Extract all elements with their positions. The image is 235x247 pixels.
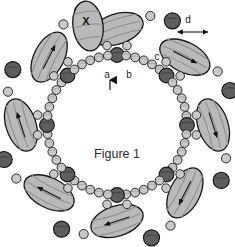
- ring-light-bead: [57, 163, 66, 172]
- linker-bead: [123, 41, 132, 50]
- ring-light-bead: [52, 86, 61, 95]
- label-a: a: [104, 69, 110, 80]
- satellite-light-bead: [3, 87, 12, 96]
- linker-bead: [192, 111, 201, 120]
- linker-bead: [103, 41, 112, 50]
- ring-light-bead: [45, 139, 54, 148]
- ring-light-bead: [48, 147, 57, 156]
- ring-light-bead: [70, 65, 79, 74]
- satellite-dark-bead: [5, 62, 21, 78]
- figure-1-diagram: abcdX Figure 1: [0, 0, 235, 247]
- label-c: c: [155, 51, 160, 62]
- ring-light-bead: [122, 51, 131, 60]
- satellite-light-bead: [12, 174, 21, 183]
- satellite-dark-bead: [143, 230, 159, 246]
- ring-light-bead: [139, 185, 148, 194]
- ring-light-bead: [94, 188, 103, 197]
- ring-light-bead: [86, 185, 95, 194]
- ring-light-bead: [173, 86, 182, 95]
- ring-light-bead: [148, 181, 157, 190]
- ring-light-bead: [103, 190, 112, 199]
- satellite-dark-bead: [54, 221, 70, 237]
- label-d: d: [185, 14, 191, 25]
- label-b: b: [126, 69, 132, 80]
- ring-light-bead: [155, 176, 164, 185]
- linker-bead: [192, 131, 201, 140]
- ring-light-bead: [177, 94, 186, 103]
- ring-light-bead: [180, 102, 189, 111]
- linker-bead: [33, 111, 42, 120]
- linker-bead: [50, 72, 59, 81]
- satellite-light-bead: [146, 11, 155, 20]
- ring-light-bead: [182, 130, 191, 139]
- satellite-dark-bead: [222, 83, 235, 99]
- ring-light-bead: [177, 147, 186, 156]
- ring-light-bead: [43, 111, 52, 120]
- linker-bead: [162, 58, 171, 67]
- satellite-dark-bead: [164, 13, 180, 29]
- ring-light-bead: [180, 139, 189, 148]
- ring-light-bead: [86, 56, 95, 65]
- ring-light-bead: [173, 156, 182, 165]
- satellite-light-bead: [221, 154, 230, 163]
- linker-bead: [176, 170, 185, 179]
- linker-bead: [162, 184, 171, 193]
- ring-light-bead: [94, 53, 103, 62]
- figure-caption: Figure 1: [94, 147, 140, 161]
- satellite-light-bead: [79, 229, 88, 238]
- linker-bead: [103, 200, 112, 209]
- linker-bead: [50, 170, 59, 179]
- label-X: X: [82, 15, 90, 27]
- ring-light-bead: [52, 156, 61, 165]
- ring-assembly-svg: abcdX Figure 1: [0, 0, 235, 247]
- linker-bead: [64, 184, 73, 193]
- satellite-dark-bead: [0, 151, 12, 167]
- linker-bead: [123, 200, 132, 209]
- ring-light-bead: [78, 60, 87, 69]
- linker-bead: [64, 58, 73, 67]
- ring-light-bead: [78, 181, 87, 190]
- satellite-dark-bead: [213, 172, 229, 188]
- ring-light-bead: [131, 188, 140, 197]
- satellite-light-bead: [59, 20, 68, 29]
- satellite-light-bead: [166, 221, 175, 230]
- ring-light-bead: [45, 102, 54, 111]
- ring-light-bead: [48, 94, 57, 103]
- ring-light-bead: [168, 78, 177, 87]
- ring-light-bead: [139, 56, 148, 65]
- linker-bead: [33, 131, 42, 140]
- linker-bead: [176, 72, 185, 81]
- satellite-light-bead: [213, 67, 222, 76]
- ring-light-bead: [103, 51, 112, 60]
- ring-light-bead: [131, 53, 140, 62]
